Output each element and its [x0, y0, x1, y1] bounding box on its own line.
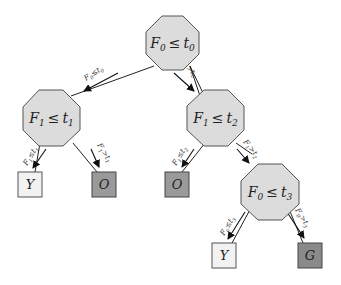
node-right: F1≤t2	[187, 90, 244, 146]
leaf-left-left-label: Y	[26, 177, 36, 192]
leaf-left-left: Y	[18, 172, 42, 197]
leaf-rr-left-label: Y	[220, 248, 230, 263]
decision-tree-diagram: F0≤t0 F0>t0 F1≤t1 F1>t1 F1≤t2 F1>t2 F0≤t…	[0, 0, 341, 285]
leaf-right-left: O	[165, 172, 189, 197]
edge-left-right	[73, 143, 97, 172]
node-left-label: F1≤t1	[28, 110, 74, 128]
leaf-rr-right-label: G	[305, 248, 315, 263]
node-root-label: F0≤t0	[149, 35, 195, 53]
node-right-right: F0≤t3	[241, 164, 299, 220]
node-right-right-label: F0≤t3	[247, 184, 293, 202]
leaf-rr-right: G	[298, 243, 322, 268]
leaf-right-left-label: O	[172, 177, 183, 192]
leaf-rr-left: Y	[212, 243, 236, 268]
leaf-left-right-label: O	[99, 177, 110, 192]
edge-root-left	[71, 66, 154, 96]
edge-label-rr-left: F0≤t3	[218, 215, 238, 239]
node-root: F0≤t0	[146, 16, 199, 70]
edge-label-right-left: F1≤t2	[170, 145, 190, 169]
edge-label-left-right: F1>t1	[94, 140, 114, 164]
leaf-left-right: O	[92, 172, 116, 197]
node-left: F1≤t1	[23, 90, 80, 146]
node-right-label: F1≤t2	[192, 110, 238, 128]
edge-label-rr-right: F0>t3	[292, 205, 312, 229]
